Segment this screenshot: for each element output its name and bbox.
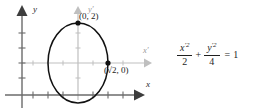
x-prime-axis [22, 59, 152, 68]
equation-term-1-exponent: ′2 [184, 41, 189, 49]
y-axis-label: y [33, 5, 37, 14]
equation-equals-sign: = [225, 49, 231, 60]
point-label-0-2: (0, 2) [79, 12, 99, 21]
x-axis [5, 90, 145, 101]
equation-term-2-denominator: 4 [209, 57, 214, 68]
x-prime-axis-label: x′ [143, 46, 149, 55]
y-axis-arrowhead [17, 5, 28, 16]
equation-right-hand-side: 1 [233, 49, 238, 60]
equation-term-1: x′2 2 [177, 42, 192, 67]
x-axis-label: x [146, 80, 150, 89]
equation-term-2-exponent: ′2 [212, 41, 217, 49]
equation-term-1-denominator: 2 [182, 57, 187, 68]
ellipse-equation: x′2 2 + y′2 4 = 1 [176, 42, 238, 67]
x-axis-arrowhead [134, 90, 145, 101]
equation-plus-operator: + [195, 49, 201, 60]
equation-term-1-numerator: x′2 [177, 42, 192, 54]
point-label-sqrt2-0: (√2, 0) [104, 66, 128, 75]
equation-term-2-numerator: y′2 [204, 42, 219, 54]
equation-term-2: y′2 4 [204, 42, 219, 67]
y-axis [17, 5, 28, 108]
point-0-2-marker [75, 20, 80, 25]
x-prime-arrowhead [144, 59, 152, 68]
